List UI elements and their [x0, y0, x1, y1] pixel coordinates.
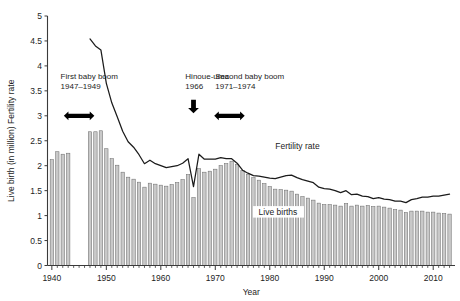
bar-live-births: [257, 180, 260, 265]
x-axis-tick-label: 1980: [260, 273, 279, 283]
x-axis-tick-label: 1950: [97, 273, 116, 283]
y-axis-tick-label: 0.5: [30, 236, 42, 246]
fertility-rate-line: [90, 39, 450, 203]
bar-live-births: [421, 211, 424, 265]
bar-live-births: [126, 177, 129, 265]
y-axis-tick-label: 1: [37, 211, 42, 221]
y-axis-tick-label: 2: [37, 161, 42, 171]
birth-rate-chart: 00.511.522.533.544.551940195019601970198…: [0, 0, 460, 301]
bar-live-births: [170, 185, 173, 266]
bar-live-births: [279, 190, 282, 266]
x-axis-tick-label: 1940: [42, 273, 61, 283]
y-axis-tick-label: 3.5: [30, 86, 42, 96]
bar-live-births: [121, 172, 124, 265]
bar-live-births: [290, 191, 293, 265]
y-axis-title: Live birth (in million) Fertility rate: [6, 79, 16, 202]
bar-live-births: [252, 178, 255, 266]
bar-live-births: [268, 187, 271, 266]
bar-live-births: [235, 164, 238, 265]
bar-live-births: [377, 206, 380, 265]
bar-live-births: [61, 154, 64, 265]
bar-live-births: [110, 159, 113, 266]
double-arrow-icon-first-baby-boom: [64, 111, 95, 120]
bar-live-births: [333, 205, 336, 265]
bar-live-births: [361, 206, 364, 265]
bar-live-births: [197, 169, 200, 266]
bar-live-births: [442, 214, 445, 266]
bar-live-births: [393, 210, 396, 266]
bar-live-births: [344, 204, 347, 266]
bar-live-births: [165, 186, 168, 265]
annotation-title-second-baby-boom: Second baby boom: [215, 72, 284, 81]
bar-live-births: [317, 203, 320, 265]
x-axis-tick-label: 1960: [151, 273, 170, 283]
bar-live-births: [203, 172, 206, 265]
x-axis-tick-label: 2010: [424, 273, 443, 283]
bar-live-births: [56, 152, 59, 266]
y-axis-tick-label: 5: [37, 11, 42, 21]
bar-live-births: [192, 198, 195, 266]
annotation-years-second-baby-boom: 1971–1974: [215, 82, 256, 91]
bar-live-births: [448, 214, 451, 265]
y-axis-tick-label: 4.5: [30, 36, 42, 46]
bar-live-births: [246, 174, 249, 265]
bar-live-births: [415, 211, 418, 265]
x-axis-tick-label: 1970: [206, 273, 225, 283]
bar-live-births: [404, 213, 407, 266]
bar-live-births: [137, 182, 140, 265]
bar-live-births: [105, 149, 108, 266]
bar-live-births: [154, 184, 157, 265]
down-arrow-icon-hinoue-uma: [188, 100, 199, 114]
annotation-title-first-baby-boom: First baby boom: [61, 72, 119, 81]
bar-live-births: [328, 205, 331, 266]
bar-live-births: [274, 189, 277, 265]
bar-live-births: [355, 205, 358, 265]
bar-live-births: [410, 211, 413, 265]
bar-live-births: [312, 200, 315, 265]
bar-live-births: [186, 175, 189, 266]
y-axis-tick-label: 4: [37, 61, 42, 71]
bar-live-births: [148, 183, 151, 265]
bar-live-births: [323, 205, 326, 266]
bar-live-births: [263, 184, 266, 266]
bar-live-births: [366, 206, 369, 266]
bar-live-births: [219, 166, 222, 266]
bar-live-births: [295, 194, 298, 265]
y-axis-tick-label: 1.5: [30, 186, 42, 196]
bar-live-births: [388, 208, 391, 265]
x-axis-tick-label: 1990: [315, 273, 334, 283]
bar-live-births: [225, 164, 228, 266]
x-axis-tick-label: 2000: [369, 273, 388, 283]
chart-canvas: 00.511.522.533.544.551940195019601970198…: [0, 0, 460, 301]
bar-live-births: [214, 169, 217, 265]
double-arrow-icon-second-baby-boom: [214, 111, 245, 120]
bar-live-births: [67, 153, 70, 265]
bar-live-births: [382, 207, 385, 265]
bar-live-births: [426, 212, 429, 265]
bar-live-births: [350, 206, 353, 265]
annotations-group: First baby boom1947–1949Hinoue-uma1966Se…: [61, 72, 285, 120]
y-axis-tick-label: 3: [37, 111, 42, 121]
fertility-line-group: [90, 39, 450, 203]
bars-group: [50, 131, 451, 266]
bar-live-births: [432, 212, 435, 265]
bar-live-births: [241, 171, 244, 266]
bar-live-births: [399, 210, 402, 265]
bar-live-births: [306, 198, 309, 265]
bar-live-births: [181, 180, 184, 266]
annotation-years-hinoue-uma: 1966: [185, 82, 203, 91]
bar-live-births: [88, 132, 91, 266]
y-axis-tick-label: 2.5: [30, 136, 42, 146]
bar-live-births: [339, 206, 342, 265]
bar-live-births: [94, 132, 97, 266]
bar-live-births: [143, 187, 146, 265]
bar-live-births: [175, 183, 178, 266]
bar-live-births: [99, 131, 102, 266]
annotation-years-first-baby-boom: 1947–1949: [61, 82, 102, 91]
bar-live-births: [50, 160, 53, 266]
y-axis-tick-label: 0: [37, 261, 42, 271]
bar-live-births: [208, 171, 211, 265]
live-births-series-label: Live births: [259, 207, 298, 217]
bar-live-births: [284, 190, 287, 265]
x-axis-title: Year: [243, 287, 260, 297]
